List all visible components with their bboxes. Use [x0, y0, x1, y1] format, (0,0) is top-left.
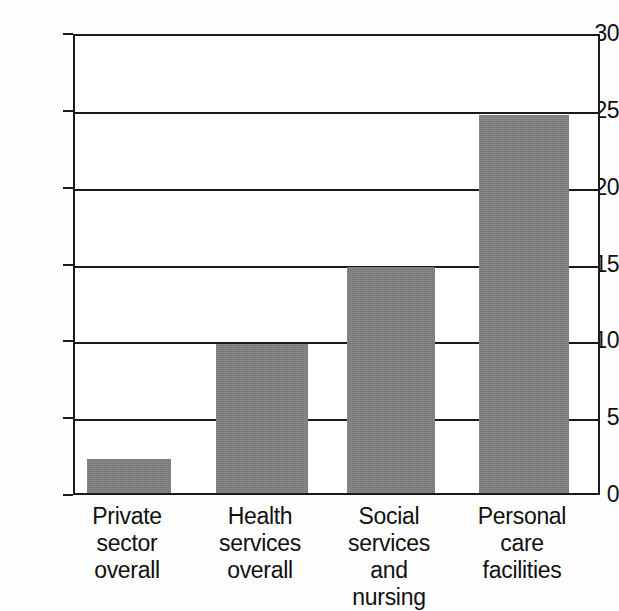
y-axis-tick-mark: [63, 340, 73, 342]
x-axis-category-label: Health services overall: [185, 503, 335, 584]
bar: [87, 459, 171, 493]
x-axis-category-label: Private sector overall: [52, 503, 202, 584]
bar: [216, 344, 308, 493]
x-axis-category-label: Social services and nursing: [314, 503, 464, 611]
x-axis-category-label: Personal care facilities: [447, 503, 597, 584]
bar: [479, 115, 569, 493]
y-axis-tick-mark: [63, 417, 73, 419]
y-axis-tick-mark: [63, 494, 73, 496]
y-axis-tick-mark: [63, 110, 73, 112]
bar: [347, 267, 435, 493]
y-axis-tick-mark: [63, 264, 73, 266]
y-axis-tick-mark: [63, 33, 73, 35]
plot-area: [73, 34, 600, 495]
gridline: [75, 112, 598, 114]
y-axis-tick-mark: [63, 187, 73, 189]
